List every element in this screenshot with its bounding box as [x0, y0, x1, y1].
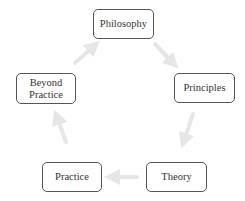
node-label: Practice	[55, 171, 89, 183]
arrow-philosophy-to-principles	[155, 44, 173, 63]
node-beyond-practice: Beyond Practice	[16, 73, 76, 104]
arrow-beyond-practice-to-philosophy	[75, 46, 94, 63]
node-label: Theory	[161, 171, 191, 183]
arrow-practice-to-beyond-practice	[57, 117, 66, 142]
arrow-principles-to-theory	[184, 114, 193, 141]
node-practice: Practice	[42, 162, 102, 192]
node-theory: Theory	[146, 162, 207, 192]
node-label: Beyond Practice	[29, 77, 63, 101]
node-philosophy: Philosophy	[93, 9, 154, 39]
cycle-diagram: Philosophy Principles Theory Practice Be…	[0, 0, 245, 201]
node-label: Philosophy	[100, 18, 147, 30]
node-principles: Principles	[174, 73, 235, 103]
node-label: Principles	[184, 82, 226, 94]
